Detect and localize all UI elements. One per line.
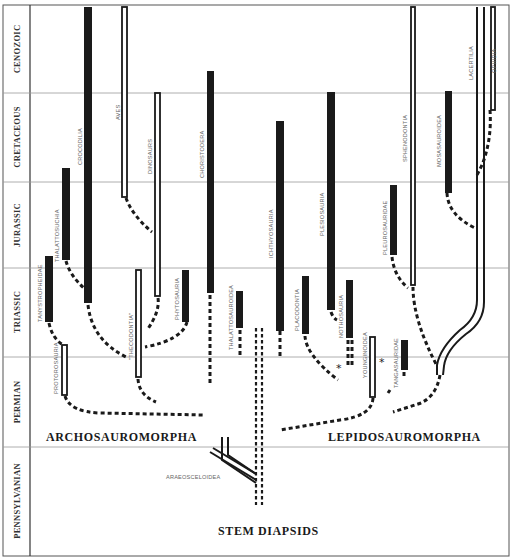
period-permian: PERMIAN bbox=[12, 380, 22, 423]
bar-choristodera bbox=[207, 71, 214, 293]
label-plesiosauria: PLESIOSAURIA bbox=[319, 192, 325, 236]
bar-thalattosuchia bbox=[62, 168, 70, 260]
bar-crocodilia bbox=[84, 7, 92, 303]
label-dinosaurs: DINOSAURS bbox=[147, 139, 153, 174]
lepidosaur-dashed-links bbox=[280, 110, 490, 430]
label-ophidia: OPHIDIA bbox=[491, 49, 497, 73]
label-pleurosauridae: PLEUROSAURIDAE bbox=[382, 201, 388, 255]
label-lacertilia: LACERTILIA bbox=[468, 46, 474, 80]
label-protorosauria: PROTOROSAURIA bbox=[53, 342, 59, 394]
bar-sphenodontia bbox=[411, 7, 415, 285]
bar-tangasauridae bbox=[401, 340, 408, 370]
label-ichthyosauria: ICHTHYOSAURIA bbox=[268, 209, 274, 258]
bar-nothosauria bbox=[346, 280, 353, 338]
asterisk-marker-2: * bbox=[379, 356, 385, 369]
group-archosauromorpha: ARCHOSAUROMORPHA bbox=[46, 430, 197, 444]
label-tanystropheidae: TANYSTROPHEIDAE bbox=[37, 264, 43, 322]
label-mosasauroidea: MOSASAUROIDEA bbox=[436, 115, 442, 167]
asterisk-marker-1: * bbox=[336, 362, 342, 375]
label-tangasauridae: TANGASAURIDAE bbox=[393, 338, 399, 388]
label-younginoidea: YOUNGINOIDEA bbox=[362, 332, 368, 378]
period-cretaceous: CRETACEOUS bbox=[12, 106, 22, 167]
bar-plesiosauria bbox=[327, 92, 335, 310]
label-thecodontia: "THECODONTIA" bbox=[128, 313, 134, 360]
bar-thalattosauroidea bbox=[236, 291, 243, 328]
lacertilia-lineage bbox=[437, 7, 484, 375]
stem-diapsid-lineage bbox=[256, 328, 262, 505]
bar-younginoidea bbox=[370, 337, 375, 397]
period-cenozoic: CENOZOIC bbox=[12, 25, 22, 74]
bar-tanystropheidae bbox=[45, 256, 53, 322]
label-sphenodontia: SPHENODONTIA bbox=[402, 115, 408, 162]
label-araeosceloidea: ARAEOSCELOIDEA bbox=[166, 474, 220, 480]
label-aves: AVES bbox=[115, 105, 121, 120]
bar-dinosaurs bbox=[155, 93, 160, 296]
bar-aves bbox=[122, 7, 127, 197]
label-crocodilia: CROCODILIA bbox=[77, 128, 83, 165]
label-choristodera: CHORISTODERA bbox=[199, 131, 205, 178]
label-thalattosauroidea: THALATTOSAUROIDEA bbox=[228, 285, 234, 350]
period-triassic: TRIASSIC bbox=[12, 291, 22, 334]
bar-mosasauroidea bbox=[445, 91, 452, 193]
bar-pleurosauridae bbox=[390, 185, 397, 255]
group-lepidosauromorpha: LEPIDOSAUROMORPHA bbox=[328, 430, 481, 444]
group-stem-diapsids: STEM DIAPSIDS bbox=[218, 524, 319, 538]
period-pennsylvanian: PENNSYLVANIAN bbox=[12, 463, 22, 539]
label-placodontia: PLACODONTIA bbox=[294, 289, 300, 331]
bar-protorosauria bbox=[62, 345, 67, 395]
bar-ichthyosauria bbox=[276, 121, 284, 331]
label-thalattosuchia: THALATTOSUCHIA bbox=[54, 209, 60, 262]
diapsid-phylogeny-diagram: CENOZOIC CRETACEOUS JURASSIC TRIASSIC PE… bbox=[0, 0, 512, 559]
period-jurassic: JURASSIC bbox=[12, 203, 22, 247]
label-phytosauria: PHYTOSAURIA bbox=[174, 278, 180, 320]
bar-placodontia bbox=[302, 276, 309, 334]
label-nothosauria: NOTHOSAURIA bbox=[338, 295, 344, 338]
bar-thecodontia bbox=[136, 270, 141, 377]
bar-phytosauria bbox=[182, 270, 189, 322]
